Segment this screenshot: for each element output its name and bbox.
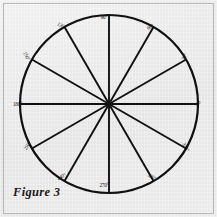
degree-label: 90° (101, 15, 108, 20)
degree-label: 0° (196, 102, 200, 107)
degree-label: 270° (99, 183, 108, 188)
degree-label: 180° (13, 102, 22, 107)
figure-page: 0°30°60°90°120°150°180°210°240°270°300°3… (0, 0, 217, 217)
figure-caption: Figure 3 (13, 185, 60, 200)
